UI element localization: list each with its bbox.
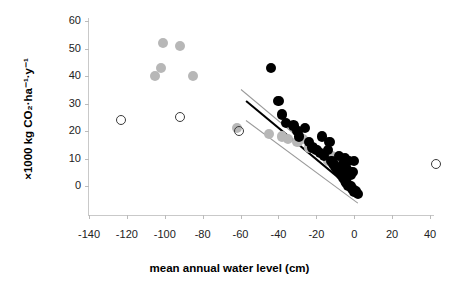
data-point-gray-filled (156, 63, 166, 73)
x-tick-mark (278, 215, 279, 219)
data-point-black-filled (300, 123, 310, 133)
data-point-black-filled (351, 186, 361, 196)
y-tick-label: 20 (55, 125, 81, 136)
data-point-black-filled (281, 118, 291, 128)
confidence-lower (246, 120, 358, 203)
y-tick-mark (85, 186, 89, 187)
data-point-black-filled (338, 173, 348, 183)
data-point-black-filled (307, 142, 317, 152)
data-point-open-circle (175, 112, 185, 122)
data-point-black-filled (336, 170, 346, 180)
y-tick-label: 30 (55, 98, 81, 109)
data-point-gray-filled (264, 129, 274, 139)
data-point-black-filled (347, 167, 357, 177)
data-point-black-filled (334, 167, 344, 177)
data-point-black-filled (347, 184, 357, 194)
data-point-black-filled (340, 153, 350, 163)
regression-fit (246, 100, 354, 190)
data-point-black-filled (315, 148, 325, 158)
x-tick-mark (354, 215, 355, 219)
data-point-black-filled (345, 181, 355, 191)
data-point-gray-filled (277, 131, 287, 141)
data-point-gray-filled (332, 159, 342, 169)
data-point-black-filled (311, 145, 321, 155)
y-tick-label: 40 (55, 70, 81, 81)
data-point-black-filled (288, 120, 298, 130)
data-point-black-filled (345, 170, 355, 180)
y-tick-mark (85, 76, 89, 77)
data-point-black-filled (330, 162, 340, 172)
data-point-gray-filled (232, 123, 242, 133)
x-tick-mark (127, 215, 128, 219)
data-point-gray-filled (150, 71, 160, 81)
y-axis-label: ×1000 kg CO₂·ha⁻¹·y⁻¹ (21, 29, 35, 209)
data-point-black-filled (326, 156, 336, 166)
data-point-black-filled (294, 131, 304, 141)
x-tick-mark (241, 215, 242, 219)
x-tick-mark (430, 215, 431, 219)
x-tick-mark (392, 215, 393, 219)
data-point-black-filled (353, 189, 363, 199)
data-point-gray-filled (323, 156, 333, 166)
data-point-black-filled (341, 164, 351, 174)
x-tick-label: -80 (183, 229, 223, 240)
data-point-gray-filled (336, 162, 346, 172)
data-point-gray-filled (175, 41, 185, 51)
data-point-open-circle (431, 159, 441, 169)
scatter-plot-figure: ×1000 kg CO₂·ha⁻¹·y⁻¹ mean annual water … (0, 0, 459, 291)
confidence-upper (240, 89, 352, 183)
data-point-gray-filled (304, 142, 314, 152)
data-point-gray-filled (298, 134, 308, 144)
y-tick-label: 10 (55, 153, 81, 164)
x-axis-label: mean annual water level (cm) (0, 262, 459, 274)
data-point-black-filled (343, 156, 353, 166)
data-point-black-filled (328, 159, 338, 169)
x-tick-label: 40 (410, 229, 450, 240)
data-point-black-filled (341, 178, 351, 188)
data-point-black-filled (323, 145, 333, 155)
data-point-black-filled (277, 109, 287, 119)
data-point-black-filled (349, 186, 359, 196)
x-axis-line (88, 215, 434, 216)
data-point-gray-filled (319, 148, 329, 158)
y-tick-mark (85, 21, 89, 22)
y-tick-mark (85, 159, 89, 160)
data-point-black-filled (273, 96, 283, 106)
data-point-gray-filled (283, 134, 293, 144)
x-tick-label: 20 (372, 229, 412, 240)
data-point-black-filled (266, 63, 276, 73)
x-tick-label: 0 (334, 229, 374, 240)
y-tick-mark (85, 104, 89, 105)
x-tick-label: -100 (145, 229, 185, 240)
x-tick-label: -120 (107, 229, 147, 240)
data-point-black-filled (324, 137, 334, 147)
data-point-gray-filled (326, 151, 336, 161)
x-tick-label: -40 (258, 229, 298, 240)
y-tick-mark (85, 49, 89, 50)
data-point-black-filled (292, 126, 302, 136)
data-point-open-circle (116, 115, 126, 125)
data-point-black-filled (349, 156, 359, 166)
data-point-gray-filled (188, 71, 198, 81)
data-point-gray-filled (292, 137, 302, 147)
data-point-black-filled (317, 131, 327, 141)
x-tick-label: -60 (221, 229, 261, 240)
data-point-black-filled (338, 159, 348, 169)
data-point-gray-filled (340, 164, 350, 174)
data-point-black-filled (343, 181, 353, 191)
x-tick-mark (89, 215, 90, 219)
x-tick-mark (165, 215, 166, 219)
data-point-gray-filled (343, 170, 353, 180)
data-point-black-filled (340, 175, 350, 185)
x-tick-mark (316, 215, 317, 219)
data-point-black-filled (304, 137, 314, 147)
data-point-gray-filled (311, 145, 321, 155)
data-point-black-filled (332, 164, 342, 174)
x-tick-label: -140 (69, 229, 109, 240)
data-point-gray-filled (158, 38, 168, 48)
x-tick-mark (203, 215, 204, 219)
x-tick-label: -20 (296, 229, 336, 240)
y-tick-label: 0 (55, 180, 81, 191)
data-point-black-filled (334, 151, 344, 161)
y-tick-label: 50 (55, 43, 81, 54)
